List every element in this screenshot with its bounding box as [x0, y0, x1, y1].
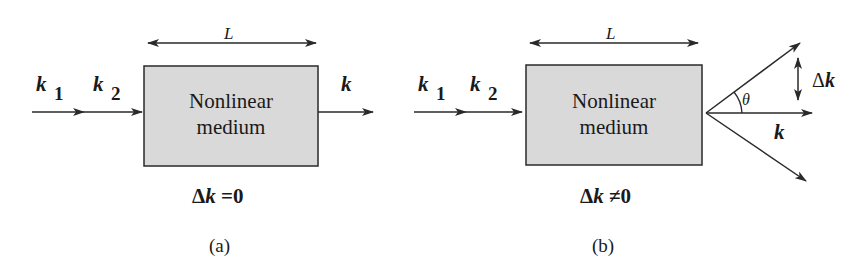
input-k2-subscript: 2 [488, 84, 498, 103]
caption-a: (a) [209, 236, 230, 255]
output-arrow-upper [706, 43, 800, 113]
output-k-label: k [341, 74, 352, 95]
delta-symbol: Δ [580, 184, 593, 208]
delta-k-label: Δk [812, 70, 835, 90]
theta-angle-arc [734, 92, 742, 113]
input-k2-symbol: k [93, 74, 104, 95]
box-text-line1: Nonlinear [156, 88, 306, 114]
diagram-canvas [0, 0, 865, 277]
k-symbol: k [825, 69, 835, 91]
theta-label: θ [742, 92, 750, 108]
relation: =0 [216, 184, 244, 208]
output-k-label: k [774, 122, 785, 143]
length-label: L [606, 25, 615, 42]
input-k1-symbol: k [36, 74, 47, 95]
input-k2-symbol: k [470, 74, 481, 95]
phase-match-condition: Δk =0 [192, 186, 243, 207]
box-text-line1: Nonlinear [539, 88, 689, 114]
input-k1-subscript: 1 [436, 84, 446, 103]
k-symbol: k [593, 184, 604, 208]
caption-b: (b) [592, 236, 614, 255]
length-label: L [224, 25, 233, 42]
input-k2-subscript: 2 [111, 84, 121, 103]
box-text-line2: medium [156, 114, 306, 140]
k-symbol: k [205, 184, 216, 208]
input-k1-subscript: 1 [54, 84, 64, 103]
relation: ≠0 [604, 184, 631, 208]
delta-symbol: Δ [812, 69, 825, 91]
phase-mismatch-condition: Δk ≠0 [580, 186, 631, 207]
input-k1-symbol: k [418, 74, 429, 95]
box-text-line2: medium [539, 114, 689, 140]
output-arrow-lower [706, 113, 806, 181]
delta-symbol: Δ [192, 184, 205, 208]
